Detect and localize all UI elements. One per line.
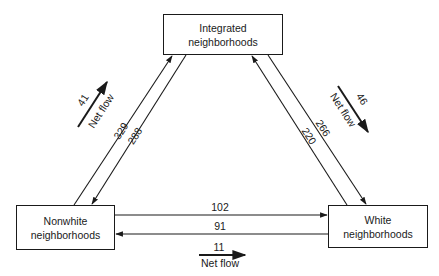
net-flow-bottom-value: 11 xyxy=(214,241,225,253)
flow-arrows-layer: 329 288 41 Net flow 266 220 46 Net flow … xyxy=(0,0,439,276)
arrow-integrated-to-white xyxy=(268,55,366,204)
net-flow-left-value: 41 xyxy=(74,92,91,108)
net-flow-right-value: 46 xyxy=(354,91,371,107)
flow-label-white-to-nonwhite: 91 xyxy=(214,220,226,232)
net-flow-left-label: Net flow xyxy=(85,91,116,130)
flow-label-nonwhite-to-white: 102 xyxy=(211,201,229,213)
net-flow-bottom-label: Net flow xyxy=(201,257,239,269)
